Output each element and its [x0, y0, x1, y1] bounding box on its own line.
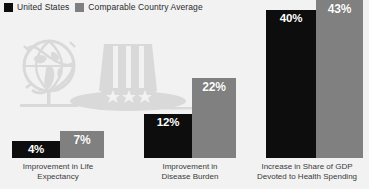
- bar-value-united-states-gdp-health-spending: 40%: [280, 13, 302, 25]
- legend-item-comparable-country-average: Comparable Country Average: [75, 3, 202, 12]
- x-axis-labels: Improvement in Life Expectancy Improveme…: [0, 160, 369, 189]
- x-axis-label-disease-burden-line2: Disease Burden: [140, 172, 240, 182]
- bar-value-united-states-life-expectancy: 4%: [28, 144, 44, 156]
- bar-united-states-life-expectancy[interactable]: 4%: [12, 141, 60, 158]
- bar-united-states-gdp-health-spending[interactable]: 40%: [266, 10, 316, 158]
- x-axis-label-life-expectancy-line2: Expectancy: [8, 172, 108, 182]
- bar-value-comparable-average-disease-burden: 22%: [202, 81, 225, 93]
- legend-label-comparable-country-average: Comparable Country Average: [88, 3, 202, 12]
- bar-group-life-expectancy: 4% 7%: [12, 0, 104, 158]
- bar-group-gdp-health-spending: 40% 43%: [266, 0, 363, 158]
- plot-area: 4% 7% 12% 22% 40% 43%: [0, 0, 369, 158]
- bar-comparable-average-disease-burden[interactable]: 22%: [192, 78, 236, 158]
- bar-value-united-states-disease-burden: 12%: [157, 117, 179, 129]
- bar-comparable-average-life-expectancy[interactable]: 7%: [60, 131, 104, 158]
- x-axis-label-gdp-health-spending: Increase in Share of GDP Devoted to Heal…: [246, 162, 368, 182]
- axis-baseline: [0, 158, 369, 159]
- x-axis-label-gdp-health-spending-line2: Devoted to Health Spending: [246, 172, 368, 182]
- x-axis-label-life-expectancy: Improvement in Life Expectancy: [8, 162, 108, 182]
- bar-value-comparable-average-gdp-health-spending: 43%: [328, 3, 351, 15]
- bar-value-comparable-average-life-expectancy: 7%: [74, 134, 91, 146]
- bar-united-states-disease-burden[interactable]: 12%: [144, 114, 192, 158]
- bar-chart: United States Comparable Country Average: [0, 0, 369, 189]
- x-axis-label-disease-burden: Improvement in Disease Burden: [140, 162, 240, 182]
- bar-comparable-average-gdp-health-spending[interactable]: 43%: [316, 0, 363, 158]
- x-axis-label-gdp-health-spending-line1: Increase in Share of GDP: [246, 162, 368, 172]
- x-axis-label-life-expectancy-line1: Improvement in Life: [8, 162, 108, 172]
- chart-legend: United States Comparable Country Average: [4, 3, 203, 12]
- square-swatch-dark-icon: [4, 3, 13, 12]
- legend-item-united-states: United States: [4, 3, 69, 12]
- legend-label-united-states: United States: [17, 3, 69, 12]
- bar-group-disease-burden: 12% 22%: [144, 0, 236, 158]
- square-swatch-gray-icon: [75, 3, 84, 12]
- x-axis-label-disease-burden-line1: Improvement in: [140, 162, 240, 172]
